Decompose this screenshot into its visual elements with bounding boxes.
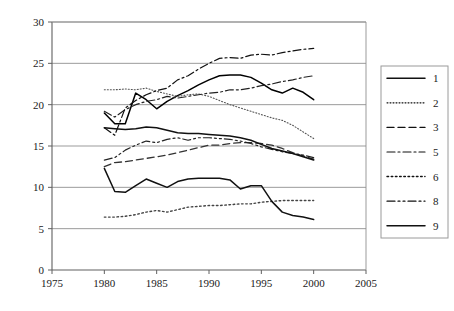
x-axis-tick-labels: 1975198019851990199520002005 bbox=[41, 277, 378, 289]
series-line-2 bbox=[104, 88, 313, 138]
series-line-1 bbox=[104, 75, 313, 124]
y-tick-label: 5 bbox=[39, 223, 45, 235]
series-line-5-upper bbox=[104, 48, 313, 135]
y-tick-label: 25 bbox=[33, 57, 45, 69]
y-axis-tick-labels: 051015202530 bbox=[33, 16, 45, 276]
legend-label-6: 6 bbox=[433, 171, 439, 183]
x-tick-label: 1985 bbox=[146, 277, 169, 289]
y-tick-label: 30 bbox=[33, 16, 45, 28]
x-tick-label: 1990 bbox=[198, 277, 221, 289]
x-tick-label: 1980 bbox=[93, 277, 116, 289]
series-line-9 bbox=[104, 168, 313, 219]
y-tick-label: 0 bbox=[39, 264, 45, 276]
line-chart: 1975198019851990199520002005 05101520253… bbox=[0, 0, 454, 311]
legend-label-9: 9 bbox=[433, 220, 439, 232]
x-tick-label: 2000 bbox=[303, 277, 326, 289]
y-axis-ticks bbox=[48, 22, 52, 270]
legend-label-1: 1 bbox=[433, 72, 439, 84]
y-tick-label: 10 bbox=[33, 181, 45, 193]
x-tick-label: 1975 bbox=[41, 277, 64, 289]
legend-label-3: 3 bbox=[433, 121, 439, 133]
series-line-6 bbox=[104, 201, 313, 218]
gridlines bbox=[52, 22, 366, 229]
y-tick-label: 20 bbox=[33, 99, 45, 111]
series-line-9-upper bbox=[104, 127, 313, 160]
chart-legend: 1235689 bbox=[381, 66, 448, 238]
chart-svg: 1975198019851990199520002005 05101520253… bbox=[0, 0, 454, 311]
x-tick-label: 2005 bbox=[355, 277, 378, 289]
legend-label-5: 5 bbox=[433, 146, 439, 158]
x-tick-label: 1995 bbox=[250, 277, 273, 289]
legend-label-2: 2 bbox=[433, 97, 439, 109]
y-tick-label: 15 bbox=[33, 140, 45, 152]
data-series-group bbox=[104, 48, 313, 219]
x-axis-ticks bbox=[52, 270, 366, 274]
legend-label-8: 8 bbox=[433, 195, 439, 207]
